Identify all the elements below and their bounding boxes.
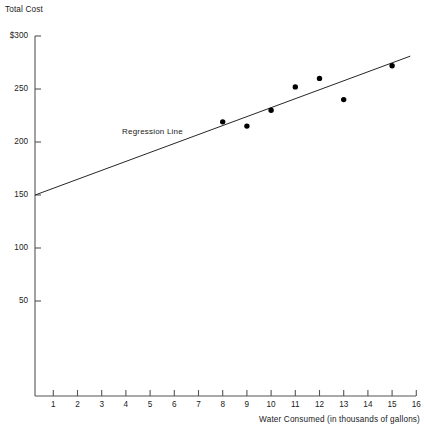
x-axis-ticks	[53, 390, 416, 396]
x-axis-tick-label: 6	[166, 400, 182, 409]
y-axis-tick-label: 200	[2, 137, 28, 146]
x-axis-tick-label: 10	[263, 400, 279, 409]
x-axis-tick-label: 1	[45, 400, 61, 409]
plot-area	[0, 0, 424, 431]
y-axis-ticks	[35, 36, 41, 301]
x-axis-tick-label: 16	[408, 400, 424, 409]
y-axis-tick-label: 150	[2, 190, 28, 199]
x-axis-tick-label: 3	[94, 400, 110, 409]
data-point	[293, 84, 298, 89]
x-axis-tick-label: 4	[118, 400, 134, 409]
data-points	[220, 63, 395, 129]
x-axis-tick-label: 9	[239, 400, 255, 409]
x-axis-tick-label: 11	[287, 400, 303, 409]
x-axis-tick-label: 8	[215, 400, 231, 409]
x-axis-tick-label: 12	[312, 400, 328, 409]
y-axis-tick-label: 100	[2, 243, 28, 252]
data-point	[317, 76, 322, 81]
x-axis-tick-label: 15	[384, 400, 400, 409]
x-axis-tick-label: 5	[142, 400, 158, 409]
data-point	[268, 108, 273, 113]
x-axis-tick-label: 7	[191, 400, 207, 409]
chart-figure: Total Cost Water Consumed (in thousands …	[0, 0, 424, 431]
x-axis-tick-label: 2	[70, 400, 86, 409]
x-axis-tick-label: 13	[336, 400, 352, 409]
data-point	[341, 97, 346, 102]
axis-lines	[35, 36, 416, 396]
data-point	[389, 63, 394, 68]
y-axis-tick-label: 250	[2, 84, 28, 93]
regression-line-path	[35, 56, 410, 195]
y-axis-tick-label: 50	[2, 296, 28, 305]
data-point	[244, 123, 249, 128]
regression-line	[35, 56, 410, 195]
x-axis-tick-label: 14	[360, 400, 376, 409]
data-point	[220, 119, 225, 124]
y-axis-tick-label: $300	[2, 31, 28, 40]
